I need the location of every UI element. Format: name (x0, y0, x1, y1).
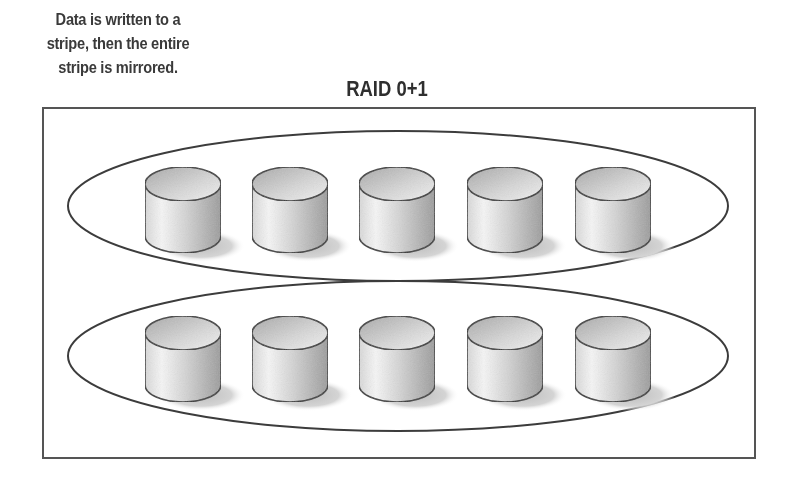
disk-icon (145, 167, 245, 262)
disk-icon (252, 316, 352, 411)
disk-icon (467, 316, 567, 411)
disk-icon (252, 167, 352, 262)
disk-icon (145, 316, 245, 411)
disk-icon (575, 316, 675, 411)
raid-diagram (0, 0, 794, 486)
disk-icon (359, 167, 459, 262)
disk-icon (467, 167, 567, 262)
stripe-set-mirror (68, 281, 728, 431)
disk-icon (575, 167, 675, 262)
stripe-set-primary (68, 131, 728, 281)
disk-icon (359, 316, 459, 411)
